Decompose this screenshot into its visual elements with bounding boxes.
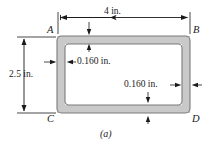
corner-label-c: C xyxy=(47,114,54,125)
left-thickness-arrow-right xyxy=(50,60,56,64)
corner-label-b: B xyxy=(193,25,199,36)
top-thickness-arrow-down xyxy=(87,29,91,35)
bottom-thickness-arrow-up xyxy=(146,116,150,122)
inner-boundary xyxy=(65,44,182,105)
width-dimension-label: 4 in. xyxy=(104,7,121,17)
width-dimension xyxy=(58,12,190,34)
wall-thickness-label-right: 0.160 in. xyxy=(124,80,158,90)
right-thickness-arrow-left xyxy=(192,83,198,87)
hollow-rectangle-section xyxy=(57,36,190,113)
corner-label-d: D xyxy=(192,114,200,125)
width-arrowhead-left xyxy=(60,15,67,20)
height-arrowhead-top xyxy=(22,39,27,46)
figure-caption: (a) xyxy=(100,129,112,139)
corner-label-a: A xyxy=(47,25,53,36)
figure-container: A B C D 4 in. 2.5 in. 0.160 in. 0.160 in… xyxy=(0,0,208,146)
wall-thickness-label-top: 0.160 in. xyxy=(77,57,111,67)
height-dimension-label: 2.5 in. xyxy=(9,70,33,80)
width-arrowhead-right xyxy=(181,15,188,20)
height-arrowhead-bottom xyxy=(22,105,27,112)
